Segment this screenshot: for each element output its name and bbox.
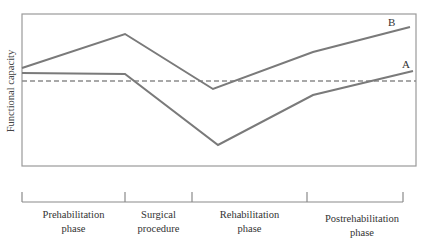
phase-label-line2: phase [192,222,307,236]
phase-label-line2: phase [307,226,417,240]
phase-rehabilitation: Rehabilitation phase [192,208,307,236]
phase-label-line2: phase [22,222,125,236]
phase-label-line1: Surgical [125,208,192,222]
phase-postrehabilitation: Postrehabilitation phase [307,212,417,240]
series-a-line [22,71,413,145]
series-b-label: B [388,16,395,28]
phase-surgical: Surgical procedure [125,208,192,236]
series-b-line [22,27,410,89]
series-a-label: A [402,58,410,70]
phase-prehabilitation: Prehabilitation phase [22,208,125,236]
y-axis-label: Functional capacity [5,46,19,136]
phase-label-line1: Postrehabilitation [307,212,417,226]
phase-label-line2: procedure [125,222,192,236]
phase-label-line1: Rehabilitation [192,208,307,222]
plot-frame [22,14,416,166]
phase-label-line1: Prehabilitation [22,208,125,222]
